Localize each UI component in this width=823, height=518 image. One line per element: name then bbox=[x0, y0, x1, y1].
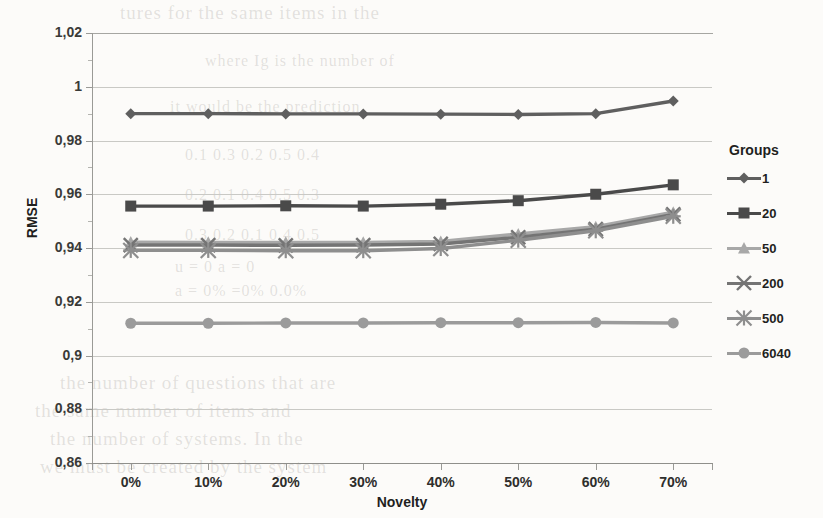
legend-swatch-20 bbox=[727, 205, 761, 221]
data-point-diamond bbox=[358, 108, 369, 119]
data-point-triangle bbox=[738, 242, 750, 254]
data-point-diamond bbox=[668, 95, 679, 106]
legend-item-200[interactable]: 200 bbox=[727, 275, 819, 291]
data-point-square bbox=[668, 179, 679, 190]
data-point-square bbox=[203, 201, 214, 212]
data-point-diamond bbox=[125, 108, 136, 119]
data-point-square bbox=[125, 201, 136, 212]
legend-label-1: 1 bbox=[762, 171, 769, 186]
data-point-circle bbox=[435, 317, 446, 328]
series-6040 bbox=[125, 317, 679, 329]
legend-swatch-500 bbox=[727, 310, 761, 326]
data-point-circle bbox=[513, 317, 524, 328]
legend-item-500[interactable]: 500 bbox=[727, 310, 819, 326]
legend: Groups 120502005006040 bbox=[727, 142, 819, 380]
data-point-diamond bbox=[739, 173, 750, 184]
data-point-circle bbox=[739, 348, 750, 359]
data-point-diamond bbox=[203, 108, 214, 119]
data-point-circle bbox=[590, 317, 601, 328]
legend-label-20: 20 bbox=[762, 206, 776, 221]
data-point-star bbox=[588, 223, 603, 238]
data-point-diamond bbox=[435, 109, 446, 120]
legend-item-20[interactable]: 20 bbox=[727, 205, 819, 221]
legend-swatch-1 bbox=[727, 170, 761, 186]
data-point-circle bbox=[125, 318, 136, 329]
legend-label-500: 500 bbox=[762, 311, 784, 326]
legend-items: 120502005006040 bbox=[727, 170, 819, 361]
legend-item-50[interactable]: 50 bbox=[727, 240, 819, 256]
data-point-circle bbox=[203, 318, 214, 329]
legend-label-50: 50 bbox=[762, 241, 776, 256]
data-point-circle bbox=[280, 317, 291, 328]
data-point-star bbox=[278, 243, 293, 258]
data-point-square bbox=[739, 208, 750, 219]
legend-item-6040[interactable]: 6040 bbox=[727, 345, 819, 361]
data-point-star bbox=[511, 233, 526, 248]
legend-title: Groups bbox=[727, 142, 819, 158]
data-point-star bbox=[123, 243, 138, 258]
data-point-star bbox=[201, 243, 216, 258]
rmse-vs-novelty-line-chart: 1,0210,980,960,940,920,90,880,86 0%10%20… bbox=[0, 0, 823, 518]
legend-swatch-50 bbox=[727, 240, 761, 256]
data-point-diamond bbox=[513, 109, 524, 120]
data-point-diamond bbox=[590, 108, 601, 119]
series-500 bbox=[123, 209, 681, 258]
data-point-diamond bbox=[280, 108, 291, 119]
y-axis-title: RMSE bbox=[24, 178, 40, 258]
legend-label-200: 200 bbox=[762, 276, 784, 291]
series-1 bbox=[125, 95, 679, 119]
data-point-circle bbox=[358, 317, 369, 328]
series-20 bbox=[125, 179, 679, 211]
legend-label-6040: 6040 bbox=[762, 346, 791, 361]
data-point-square bbox=[513, 195, 524, 206]
data-point-cross bbox=[737, 276, 751, 290]
data-point-star bbox=[666, 209, 681, 224]
data-point-star bbox=[433, 241, 448, 256]
legend-swatch-200 bbox=[727, 275, 761, 291]
data-point-square bbox=[435, 199, 446, 210]
data-point-star bbox=[737, 311, 752, 326]
data-point-square bbox=[280, 200, 291, 211]
legend-item-1[interactable]: 1 bbox=[727, 170, 819, 186]
series-plot-layer bbox=[0, 0, 823, 518]
data-point-star bbox=[356, 243, 371, 258]
data-point-square bbox=[590, 189, 601, 200]
x-axis-title: Novelty bbox=[92, 494, 712, 510]
data-point-circle bbox=[668, 317, 679, 328]
data-point-square bbox=[358, 201, 369, 212]
legend-swatch-6040 bbox=[727, 345, 761, 361]
